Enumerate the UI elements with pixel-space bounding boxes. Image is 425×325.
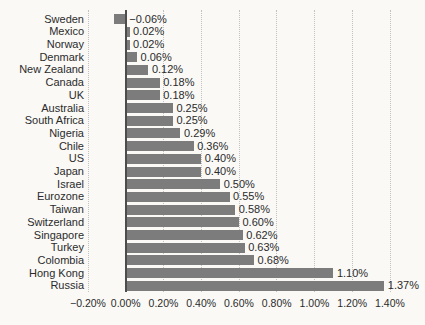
category-label: Israel	[0, 178, 84, 191]
value-label: 0.50%	[224, 178, 255, 191]
category-label: Singapore	[0, 229, 84, 242]
bar	[126, 103, 173, 113]
x-tick-label: 1.00%	[300, 297, 330, 310]
value-label: 1.10%	[337, 267, 368, 280]
category-label: Colombia	[0, 254, 84, 267]
bar	[126, 90, 160, 100]
x-tick-label: 1.40%	[375, 297, 405, 310]
gridline	[314, 10, 315, 292]
bar	[126, 205, 235, 215]
value-label: 1.37%	[388, 279, 419, 292]
category-label: Russia	[0, 279, 84, 292]
category-label: Chile	[0, 140, 84, 153]
category-label: Turkey	[0, 241, 84, 254]
value-label: 0.18%	[163, 76, 194, 89]
value-label: 0.02%	[133, 38, 164, 51]
zero-axis-line	[125, 10, 127, 292]
category-label: Australia	[0, 102, 84, 115]
bar	[126, 179, 220, 189]
category-label: Eurozone	[0, 190, 84, 203]
bar	[126, 141, 194, 151]
value-label: 0.06%	[141, 51, 172, 64]
bar	[126, 116, 173, 126]
bar	[126, 128, 181, 138]
value-label: 0.02%	[133, 25, 164, 38]
value-label: 0.36%	[197, 140, 228, 153]
category-label: Denmark	[0, 51, 84, 64]
bar	[126, 65, 149, 75]
value-label: 0.40%	[205, 152, 236, 165]
category-label: US	[0, 152, 84, 165]
x-tick-label: 0.60%	[224, 297, 254, 310]
category-label: Japan	[0, 165, 84, 178]
bar	[126, 255, 254, 265]
value-label: 0.40%	[205, 165, 236, 178]
gridline	[390, 10, 391, 292]
value-label: 0.58%	[239, 203, 270, 216]
bar	[126, 154, 202, 164]
value-label: 0.25%	[176, 102, 207, 115]
bar	[126, 78, 160, 88]
bar	[126, 192, 230, 202]
bar	[126, 52, 137, 62]
gridline	[352, 10, 353, 292]
category-label: Mexico	[0, 25, 84, 38]
bar	[126, 243, 245, 253]
bar	[126, 230, 243, 240]
x-tick-label: 1.20%	[337, 297, 367, 310]
x-tick-label: 0.00%	[111, 297, 141, 310]
value-label: 0.29%	[184, 127, 215, 140]
category-label: Nigeria	[0, 127, 84, 140]
bar-chart-figure: −0.06%0.02%0.02%0.06%0.12%0.18%0.18%0.25…	[0, 0, 425, 325]
value-label: 0.55%	[233, 190, 264, 203]
x-tick-label: 0.80%	[262, 297, 292, 310]
value-label: 0.60%	[243, 216, 274, 229]
category-label: Hong Kong	[0, 267, 84, 280]
category-label: South Africa	[0, 114, 84, 127]
category-label: New Zealand	[0, 63, 84, 76]
gridline	[88, 10, 89, 292]
x-tick-label: −0.20%	[70, 297, 106, 310]
value-label: 0.68%	[258, 254, 289, 267]
value-label: 0.62%	[246, 229, 277, 242]
category-label: Sweden	[0, 13, 84, 26]
x-tick-label: 0.20%	[149, 297, 179, 310]
bar	[126, 281, 385, 291]
category-label: UK	[0, 89, 84, 102]
value-label: 0.18%	[163, 89, 194, 102]
category-label: Taiwan	[0, 203, 84, 216]
category-label: Canada	[0, 76, 84, 89]
value-label: 0.25%	[176, 114, 207, 127]
bar	[126, 167, 202, 177]
x-tick-label: 0.40%	[186, 297, 216, 310]
value-label: −0.06%	[129, 13, 167, 26]
bar	[126, 268, 334, 278]
value-label: 0.63%	[248, 241, 279, 254]
bar	[126, 217, 239, 227]
value-label: 0.12%	[152, 63, 183, 76]
category-label: Norway	[0, 38, 84, 51]
category-label: Switzerland	[0, 216, 84, 229]
